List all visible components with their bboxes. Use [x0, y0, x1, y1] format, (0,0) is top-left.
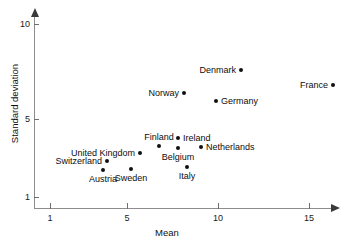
data-point-label: Sweden — [115, 173, 148, 183]
y-tick-mark — [34, 119, 39, 120]
data-point — [129, 167, 133, 171]
data-point — [214, 99, 218, 103]
data-point-label: Finland — [144, 132, 174, 142]
y-axis-arrow-icon — [31, 8, 39, 17]
x-tick-mark — [309, 203, 310, 209]
data-point-label: Norway — [148, 88, 179, 98]
scatter-chart: 1051 151015 DenmarkFranceNorwayGermanyIr… — [0, 0, 346, 247]
y-axis-title: Standard deviation — [9, 54, 20, 154]
y-tick-mark — [34, 197, 39, 198]
data-point — [157, 144, 161, 148]
data-point — [239, 68, 243, 72]
y-tick-label: 1 — [8, 192, 30, 202]
y-tick-mark — [34, 24, 39, 25]
data-point-label: Denmark — [199, 65, 236, 75]
data-point — [185, 165, 189, 169]
data-point — [105, 159, 109, 163]
x-tick-mark — [127, 203, 128, 209]
x-tick-mark — [50, 203, 51, 209]
y-tick-label: 10 — [8, 19, 30, 29]
data-point — [138, 151, 142, 155]
data-point — [176, 146, 180, 150]
data-point-label: France — [300, 80, 328, 90]
x-tick-label: 5 — [115, 213, 139, 223]
plot-area: 1051 151015 DenmarkFranceNorwayGermanyIr… — [0, 0, 346, 247]
data-point — [199, 145, 203, 149]
x-axis-title: Mean — [155, 227, 179, 238]
data-point-label: Switzerland — [55, 156, 102, 166]
data-point — [182, 91, 186, 95]
data-point — [331, 83, 335, 87]
data-point-label: Netherlands — [206, 142, 255, 152]
data-point — [101, 168, 105, 172]
data-point-label: Germany — [221, 96, 258, 106]
x-tick-mark — [218, 203, 219, 209]
x-tick-label: 10 — [206, 213, 230, 223]
x-axis-arrow-icon — [331, 204, 340, 212]
data-point-label: Austria — [89, 174, 117, 184]
data-point-label: Italy — [179, 171, 196, 181]
data-point-label: Belgium — [162, 152, 195, 162]
y-axis-line — [34, 16, 35, 208]
data-point — [176, 136, 180, 140]
x-axis-line — [34, 208, 332, 209]
x-tick-label: 15 — [297, 213, 321, 223]
x-tick-label: 1 — [38, 213, 62, 223]
